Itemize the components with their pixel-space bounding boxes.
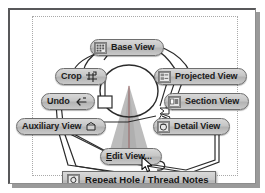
repeat-icon [67, 174, 80, 184]
menu-item-label-rest: dit View... [112, 151, 152, 161]
menu-item-label: Detail View [172, 119, 222, 134]
detail-view-icon [157, 121, 170, 133]
menu-item-label: Auxiliary View [20, 119, 83, 134]
menu-item-detail-view[interactable]: Detail View [153, 118, 230, 135]
menu-item-label: Crop [59, 69, 84, 84]
left-notch-rect [98, 96, 112, 108]
screenshot-root: Base View Crop Projected V [0, 0, 265, 193]
menu-item-accelerator: R [85, 174, 92, 184]
menu-item-auxiliary-view[interactable]: Auxiliary View [16, 118, 106, 135]
base-view-icon [94, 42, 107, 54]
menu-item-label: Section View [183, 94, 241, 109]
undo-arrow-icon [73, 96, 87, 108]
menu-item-projected-view[interactable]: Projected View [154, 68, 247, 85]
drawing-window: Base View Crop Projected V [8, 8, 256, 184]
menu-item-undo[interactable]: Undo [41, 93, 95, 110]
section-view-icon [168, 96, 181, 108]
menu-item-label-rest: epeat Hole / Thread Notes [92, 174, 209, 184]
menu-item-label: Projected View [173, 69, 239, 84]
menu-item-crop[interactable]: Crop [55, 68, 107, 85]
menu-item-base-view[interactable]: Base View [90, 39, 164, 56]
menu-item-label: Edit View... [104, 149, 154, 164]
auxiliary-view-icon [84, 121, 98, 133]
menu-item-label: Undo [45, 94, 72, 109]
menu-item-label: Repeat Hole / Thread Notes [82, 172, 209, 184]
menu-item-repeat-hole-thread-notes[interactable]: Repeat Hole / Thread Notes [62, 171, 216, 184]
menu-item-edit-view[interactable]: Edit View... [100, 148, 162, 165]
menu-item-label: Base View [109, 40, 156, 55]
crop-icon [85, 71, 99, 83]
projected-view-icon [158, 71, 171, 83]
menu-item-section-view[interactable]: Section View [164, 93, 249, 110]
